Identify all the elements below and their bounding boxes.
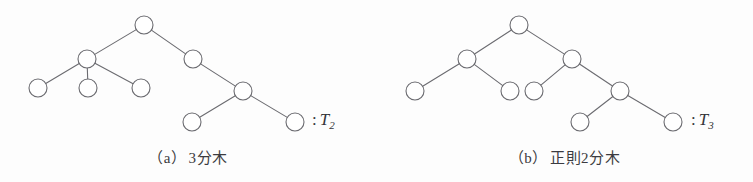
tree-edge (541, 65, 565, 85)
tree-edge (200, 96, 236, 118)
figure-root: :T2 （a）3分木 :T3 （b）正則2分木 (0, 0, 753, 182)
caption-tag: （b） (509, 150, 548, 166)
internal-node-lower (234, 82, 252, 100)
label-subscript: 2 (329, 119, 335, 131)
leaf-node-1 (406, 82, 424, 100)
tree-edge (95, 30, 137, 55)
leaf-node-2 (501, 82, 519, 100)
tree-edge (151, 30, 185, 54)
tree-edge (579, 64, 612, 86)
caption-text: 正則2分木 (550, 150, 621, 166)
internal-node-right (184, 50, 202, 68)
leaf-node-3 (132, 79, 150, 97)
figure-panel-b: :T3 （b）正則2分木 (376, 0, 753, 182)
tree-edge (251, 96, 288, 118)
caption-text: 3分木 (189, 150, 228, 166)
leaf-node-3 (525, 82, 543, 100)
leaf-node-5 (664, 113, 682, 131)
tree-edge (95, 63, 133, 83)
label-symbol: T (320, 110, 329, 129)
figure-panel-a: :T2 （a）3分木 (0, 0, 376, 182)
tree-label-a: :T2 (312, 110, 335, 131)
caption-b: （b）正則2分木 (376, 146, 753, 167)
root-node (510, 16, 528, 34)
caption-a: （a）3分木 (0, 146, 376, 167)
leaf-node-4 (183, 113, 201, 131)
leaf-node-1 (29, 79, 47, 97)
leaf-node-5 (286, 113, 304, 131)
caption-tag: （a） (148, 150, 186, 166)
tree-edge (587, 97, 613, 117)
label-colon: : (691, 110, 696, 129)
tree-edge (474, 64, 503, 85)
label-subscript: 3 (708, 119, 714, 131)
leaf-node-4 (571, 113, 589, 131)
tree-edge (201, 64, 236, 86)
root-node (135, 16, 153, 34)
tree-edge (423, 64, 460, 87)
leaf-node-2 (79, 79, 97, 97)
tree-edge (475, 30, 512, 54)
internal-node-right (563, 50, 581, 68)
internal-node-left (458, 50, 476, 68)
tree-label-b: :T3 (691, 110, 714, 131)
tree-edge (628, 96, 665, 118)
internal-node-left (78, 50, 96, 68)
tree-edge (527, 30, 565, 54)
label-symbol: T (699, 110, 708, 129)
internal-node-lower (611, 82, 629, 100)
tree-edge (46, 64, 80, 84)
label-colon: : (312, 110, 317, 129)
